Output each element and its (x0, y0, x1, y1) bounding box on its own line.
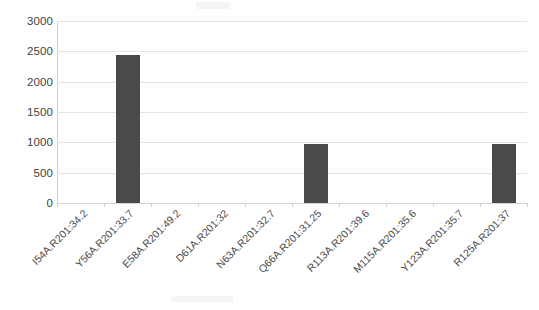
bar-slot (292, 21, 339, 203)
y-tick-label: 3000 (1, 15, 53, 27)
x-tick-mark (245, 203, 246, 207)
x-tick-mark (198, 203, 199, 207)
bar-slot (198, 21, 245, 203)
bar (116, 55, 140, 203)
bar-slot (151, 21, 198, 203)
y-axis-tick-labels: 300025002000150010005000 (0, 21, 53, 203)
y-tick-label: 2500 (1, 45, 53, 57)
x-tick-mark (57, 203, 58, 207)
x-tick-mark (386, 203, 387, 207)
y-tick-label: 0 (1, 197, 53, 209)
x-axis-tick-labels: I54A.R201:34.2Y56A.R201:33.7E58A.R201:49… (57, 207, 527, 307)
y-tick-label: 2000 (1, 76, 53, 88)
bar-slot (245, 21, 292, 203)
bar-slot (386, 21, 433, 203)
y-tick-label: 500 (1, 167, 53, 179)
x-tick-mark (480, 203, 481, 207)
bar-slot (339, 21, 386, 203)
bar (492, 144, 516, 203)
x-tick-mark (527, 203, 528, 207)
bar-slot (433, 21, 480, 203)
bar-chart: 300025002000150010005000 I54A.R201:34.2Y… (0, 0, 539, 310)
scan-artifact (196, 2, 230, 9)
x-tick-mark (292, 203, 293, 207)
bar (304, 144, 328, 203)
bar-slot (480, 21, 527, 203)
bar-slot (104, 21, 151, 203)
x-label-slot: R125A.R201:37 (480, 207, 527, 307)
x-tick-mark (339, 203, 340, 207)
bar-slot (57, 21, 104, 203)
x-tick-mark (433, 203, 434, 207)
x-tick-mark (151, 203, 152, 207)
y-tick-label: 1000 (1, 136, 53, 148)
x-tick-mark (104, 203, 105, 207)
plot-area (57, 21, 527, 203)
y-tick-label: 1500 (1, 106, 53, 118)
